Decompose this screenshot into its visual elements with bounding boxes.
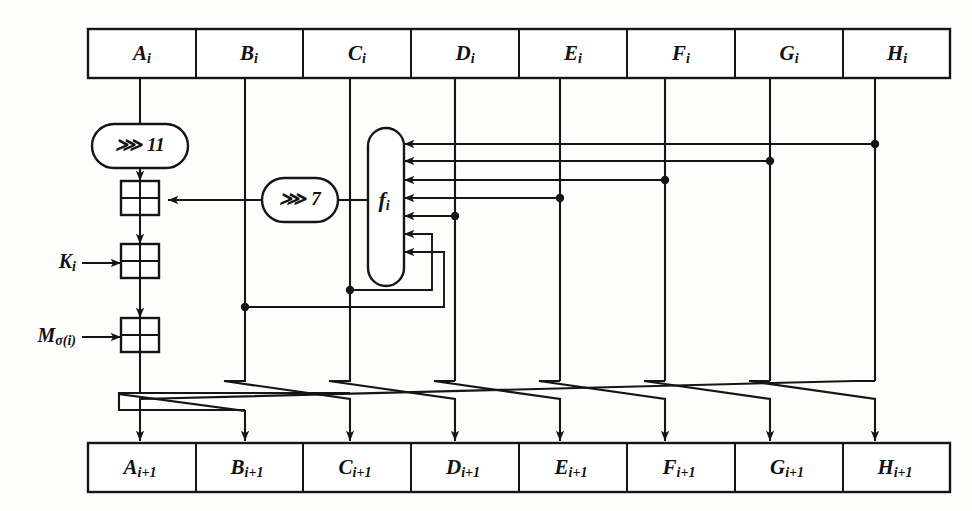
xor-gate-message <box>121 318 159 352</box>
side-input-wires <box>82 263 121 337</box>
junction-dot-f <box>661 176 669 184</box>
junction-dot-g <box>766 157 774 165</box>
diagram-canvas: Ai Bi Ci Di Ei Fi Gi Hi Ai+1 Bi+1 Ci+1 D… <box>0 0 972 511</box>
junction-dot-h <box>871 140 879 148</box>
permutation-wires <box>119 290 875 441</box>
input-row-boxes <box>88 29 950 78</box>
xor-gate-rotation-f <box>121 181 159 215</box>
junction-dot-d <box>451 212 459 220</box>
input-column-wires <box>140 78 875 381</box>
message-word-label: Mσ(i) <box>36 324 76 350</box>
junction-dot-e <box>556 194 564 202</box>
rotate-7-label: ⋙ 7 <box>279 188 322 209</box>
output-row-boxes <box>88 443 950 492</box>
rotate-11-label: ⋙ 11 <box>115 134 165 155</box>
xor-gate-key <box>121 244 159 278</box>
round-key-label: Ki <box>58 250 76 275</box>
